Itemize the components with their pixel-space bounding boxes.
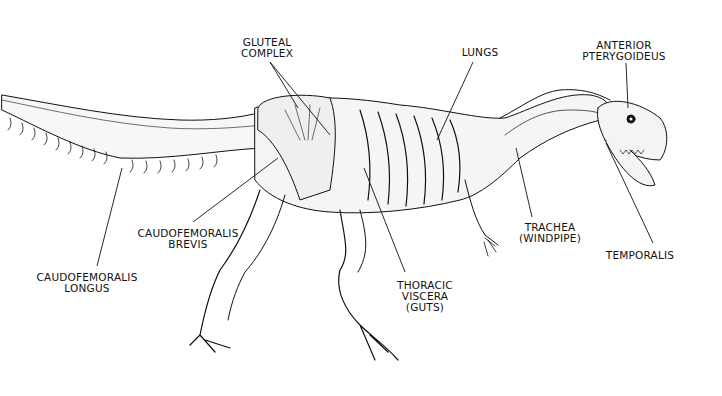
label-gluteal-complex: GLUTEAL COMPLEX: [241, 37, 293, 59]
label-temporalis: TEMPORALIS: [606, 250, 674, 261]
leader-line-caudofemoralis-longus: [97, 168, 122, 266]
label-anterior-pterygoideus: ANTERIOR PTERYGOIDEUS: [582, 40, 665, 62]
label-caudofemoralis-longus: CAUDOFEMORALIS LONGUS: [36, 272, 137, 294]
leader-line-trachea: [516, 148, 532, 217]
label-thoracic-viscera: THORACIC VISCERA (GUTS): [397, 280, 453, 313]
label-line: LUNGS: [462, 47, 499, 58]
label-line: TEMPORALIS: [606, 250, 674, 261]
hind-leg-left: [190, 190, 260, 352]
label-caudofemoralis-brevis: CAUDOFEMORALIS BREVIS: [137, 228, 238, 250]
skull-outline: [597, 101, 666, 160]
label-line: (GUTS): [397, 302, 453, 313]
label-line: COMPLEX: [241, 48, 293, 59]
tail-outline: [2, 95, 262, 158]
label-line: PTERYGOIDEUS: [582, 51, 665, 62]
label-line: (WINDPIPE): [519, 233, 581, 244]
label-trachea: TRACHEA (WINDPIPE): [519, 222, 581, 244]
anatomy-diagram: GLUTEAL COMPLEX LUNGS ANTERIOR PTERYGOID…: [0, 0, 722, 396]
label-line: LONGUS: [36, 283, 137, 294]
label-lungs: LUNGS: [462, 47, 499, 58]
leader-line-anterior-pterygoideus: [626, 63, 628, 108]
label-line: BREVIS: [137, 239, 238, 250]
